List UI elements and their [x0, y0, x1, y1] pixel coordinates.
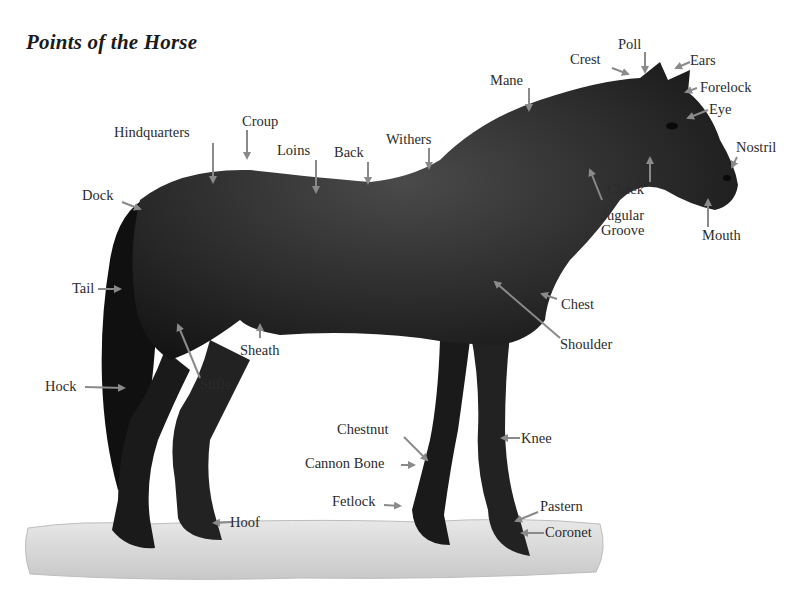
label-forelock: Forelock	[700, 80, 752, 95]
label-knee: Knee	[521, 431, 552, 446]
arrow-chestnut	[404, 437, 427, 460]
label-jugular-line1: Jugular	[601, 208, 645, 223]
eye	[666, 123, 678, 130]
label-pastern: Pastern	[540, 499, 583, 514]
label-hoof: Hoof	[230, 515, 260, 530]
label-mane: Mane	[490, 73, 523, 88]
label-mouth: Mouth	[702, 228, 741, 243]
body	[132, 62, 738, 360]
arrow-fetlock	[384, 505, 400, 506]
label-withers: Withers	[386, 132, 431, 147]
label-dock: Dock	[82, 188, 113, 203]
label-jugular-line2: Groove	[601, 223, 645, 238]
label-fetlock: Fetlock	[332, 494, 376, 509]
label-crest: Crest	[570, 52, 601, 67]
label-tail: Tail	[72, 281, 94, 296]
arrow-crest	[612, 68, 628, 74]
label-coronet: Coronet	[545, 525, 592, 540]
arrow-hock	[85, 387, 124, 388]
label-cannon-bone: Cannon Bone	[305, 456, 384, 471]
label-loins: Loins	[277, 143, 310, 158]
label-chestnut: Chestnut	[337, 422, 389, 437]
label-hindquarters: Hindquarters	[114, 125, 190, 140]
label-stifle: Stifle	[200, 377, 231, 392]
label-eye: Eye	[709, 102, 732, 117]
label-croup: Croup	[242, 114, 278, 129]
arrow-nostril	[732, 157, 737, 167]
horse-illustration	[0, 0, 789, 600]
label-cheek: Cheek	[607, 182, 644, 197]
label-hock: Hock	[45, 379, 76, 394]
label-chest: Chest	[561, 297, 594, 312]
label-nostril: Nostril	[736, 140, 776, 155]
label-back: Back	[334, 145, 364, 160]
label-jugular-groove: Jugular Groove	[601, 208, 645, 238]
arrow-ears	[676, 62, 690, 68]
label-shoulder: Shoulder	[560, 337, 612, 352]
label-poll: Poll	[618, 37, 641, 52]
fore-leg-far	[412, 340, 470, 545]
label-sheath: Sheath	[240, 343, 279, 358]
label-ears: Ears	[690, 53, 716, 68]
nostril	[723, 175, 731, 181]
